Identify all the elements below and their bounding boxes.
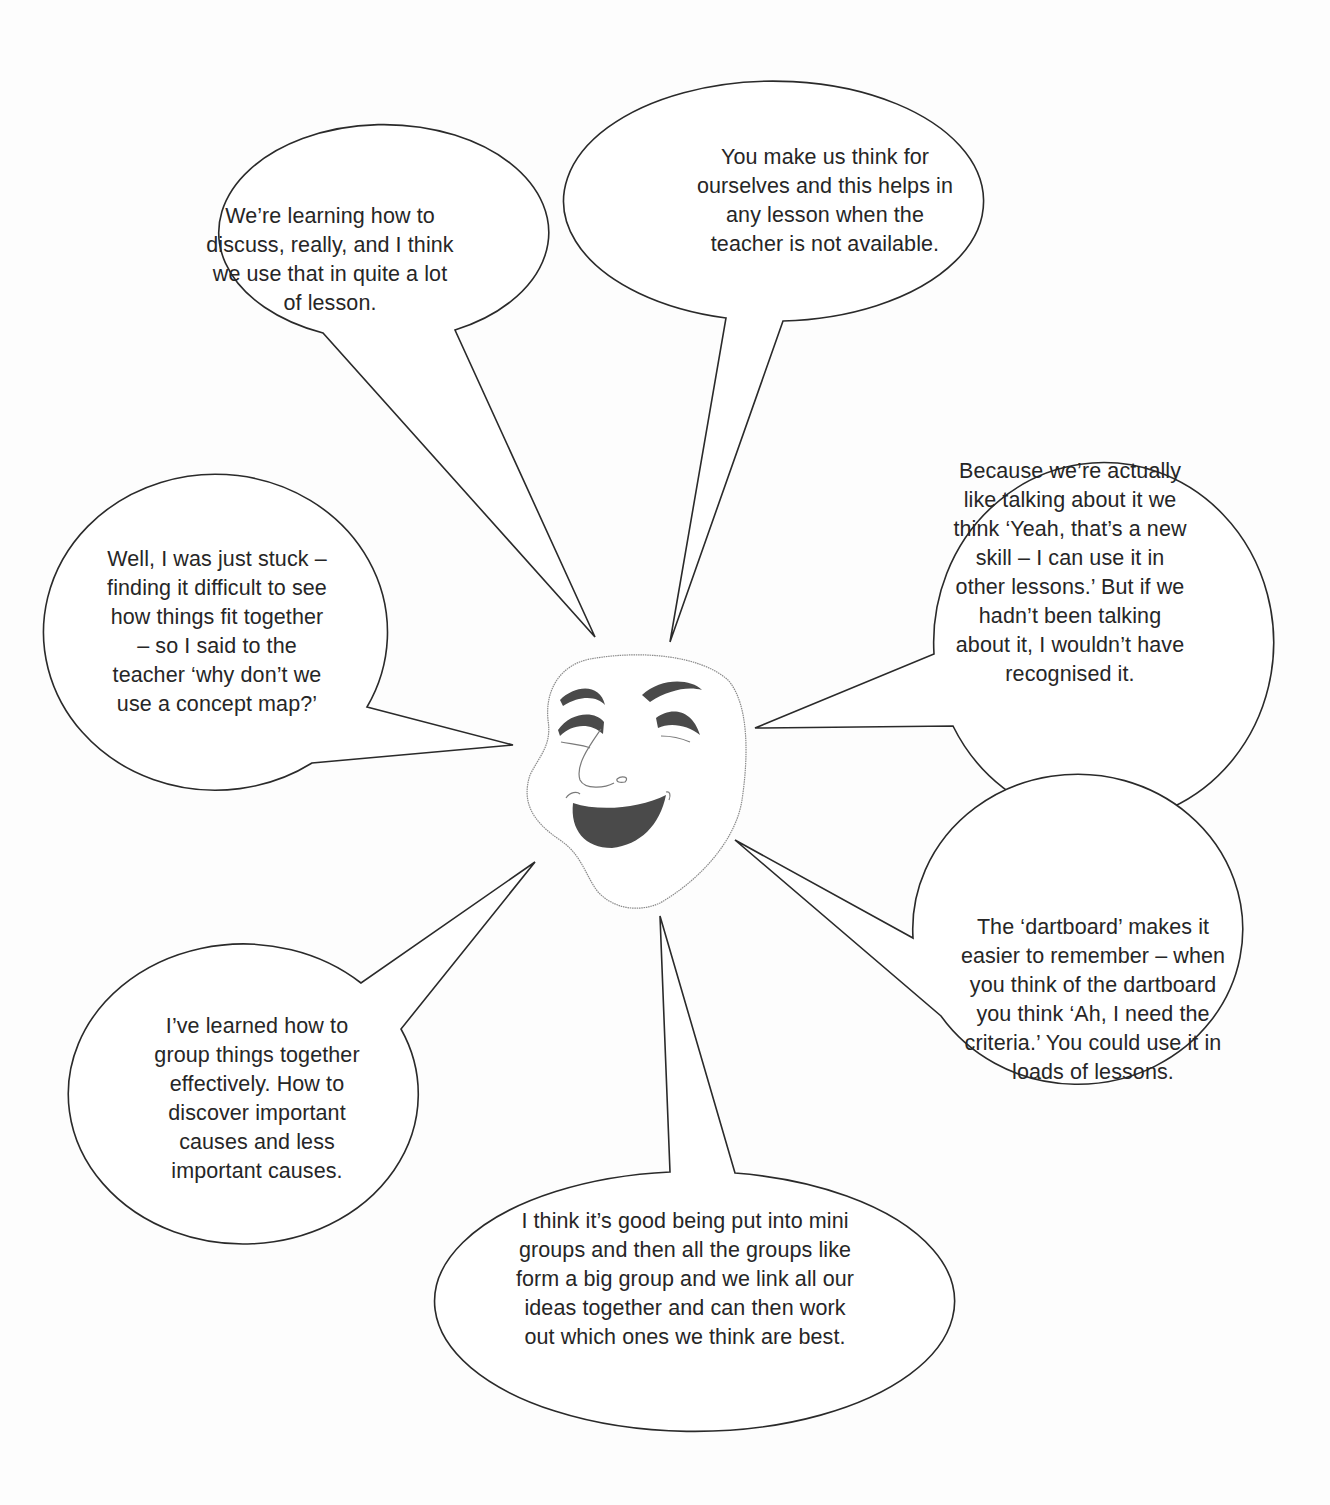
bubble-line: teacher is not available.	[665, 230, 985, 259]
bubble-line: I’ve learned how to	[112, 1012, 402, 1041]
bubble-line: out which ones we think are best.	[500, 1323, 870, 1352]
bubble-line: of lesson.	[185, 289, 475, 318]
bubble-line: ideas together and can then work	[500, 1294, 870, 1323]
bubble-line: finding it difficult to see	[72, 574, 362, 603]
bubble-line: causes and less	[112, 1128, 402, 1157]
bubble-line: form a big group and we link all our	[500, 1265, 870, 1294]
bubble-text-left-upper: Well, I was just stuck – finding it diff…	[72, 545, 362, 719]
bubble-line: how things fit together	[72, 603, 362, 632]
bubble-line: we use that in quite a lot	[185, 260, 475, 289]
bubble-line: easier to remember – when	[938, 942, 1248, 971]
bubble-line: think ‘Yeah, that’s a new	[925, 515, 1215, 544]
bubble-line: recognised it.	[925, 660, 1215, 689]
bubble-text-right-lower: The ‘dartboard’ makes it easier to remem…	[938, 913, 1248, 1087]
bubble-text-bottom: I think it’s good being put into mini gr…	[500, 1207, 870, 1352]
bubble-line: important causes.	[112, 1157, 402, 1186]
bubble-line: group things together	[112, 1041, 402, 1070]
bubble-line: – so I said to the	[72, 632, 362, 661]
bubble-line: groups and then all the groups like	[500, 1236, 870, 1265]
bubble-line: I think it’s good being put into mini	[500, 1207, 870, 1236]
bubble-line: you think ‘Ah, I need the	[938, 1000, 1248, 1029]
bubble-line: discuss, really, and I think	[185, 231, 475, 260]
bubble-text-top-center: You make us think for ourselves and this…	[665, 143, 985, 259]
bubble-text-top-left: We’re learning how to discuss, really, a…	[185, 202, 475, 318]
bubble-line: discover important	[112, 1099, 402, 1128]
bubble-line: other lessons.’ But if we	[925, 573, 1215, 602]
bubble-line: you think of the dartboard	[938, 971, 1248, 1000]
diagram-canvas: We’re learning how to discuss, really, a…	[0, 0, 1330, 1505]
bubble-line: criteria.’ You could use it in	[938, 1029, 1248, 1058]
bubble-line: loads of lessons.	[938, 1058, 1248, 1087]
bubble-line: skill – I can use it in	[925, 544, 1215, 573]
bubble-text-left-lower: I’ve learned how to group things togethe…	[112, 1012, 402, 1186]
bubble-line: Because we’re actually	[925, 457, 1215, 486]
bubble-line: The ‘dartboard’ makes it	[938, 913, 1248, 942]
speech-bubble-bottom	[435, 916, 955, 1431]
bubble-line: use a concept map?’	[72, 690, 362, 719]
bubble-line: teacher ‘why don’t we	[72, 661, 362, 690]
bubble-line: effectively. How to	[112, 1070, 402, 1099]
bubble-line: You make us think for	[665, 143, 985, 172]
bubble-text-right-upper: Because we’re actually like talking abou…	[925, 457, 1215, 689]
bubble-line: hadn’t been talking	[925, 602, 1215, 631]
bubble-line: any lesson when the	[665, 201, 985, 230]
smiling-comedy-mask-icon	[527, 655, 746, 908]
bubble-line: ourselves and this helps in	[665, 172, 985, 201]
bubble-line: Well, I was just stuck –	[72, 545, 362, 574]
bubble-line: about it, I wouldn’t have	[925, 631, 1215, 660]
bubble-line: We’re learning how to	[185, 202, 475, 231]
bubble-line: like talking about it we	[925, 486, 1215, 515]
